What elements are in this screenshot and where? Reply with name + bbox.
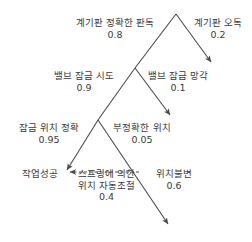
branch-label-correct-reading: 계기판 정확한 판독 0.8 (60, 17, 170, 40)
branch-label-lock-position-accurate: 잠금 위치 정확 0.95 (8, 122, 90, 145)
branch-probability: 0.95 (8, 134, 90, 146)
branch-text: 밸브 잠금 망각 (139, 70, 217, 82)
branch-label-valve-lock-attempt: 밸브 잠금 시도 0.9 (40, 70, 128, 93)
event-tree-diagram: 계기판 정확한 판독 0.8 계기판 오독 0.2 밸브 잠금 시도 0.9 밸… (0, 0, 252, 242)
branch-text-line1: 스프링에 의한 (69, 168, 144, 180)
branch-text: 부정확한 위치 (103, 122, 181, 134)
branch-text: 잠금 위치 정확 (8, 122, 90, 134)
branch-probability: 0.2 (186, 29, 250, 41)
branch-probability: 0.1 (139, 82, 217, 94)
branch-label-position-unchanged: 위치불변 0.6 (148, 168, 200, 191)
branch-label-spring-autoadjust: 스프링에 의한 위치 자동조절 0.4 (69, 168, 144, 203)
branch-probability: 0.05 (103, 134, 181, 146)
branch-probability: 0.8 (60, 29, 170, 41)
branch-text: 계기판 오독 (186, 17, 250, 29)
branch-text: 계기판 정확한 판독 (60, 17, 170, 29)
outcome-label-task-success: 작업성공 (12, 168, 67, 180)
outcome-text: 작업성공 (12, 168, 67, 180)
branch-text-line2: 위치 자동조절 (69, 180, 144, 192)
branch-label-misreading: 계기판 오독 0.2 (186, 17, 250, 40)
branch-label-valve-lock-forgotten: 밸브 잠금 망각 0.1 (139, 70, 217, 93)
branch-text: 위치불변 (148, 168, 200, 180)
branch-probability: 0.6 (148, 180, 200, 192)
branch-probability: 0.4 (69, 191, 144, 203)
branch-text: 밸브 잠금 시도 (40, 70, 128, 82)
branch-probability: 0.9 (40, 82, 128, 94)
branch-label-lock-position-inaccurate: 부정확한 위치 0.05 (103, 122, 181, 145)
